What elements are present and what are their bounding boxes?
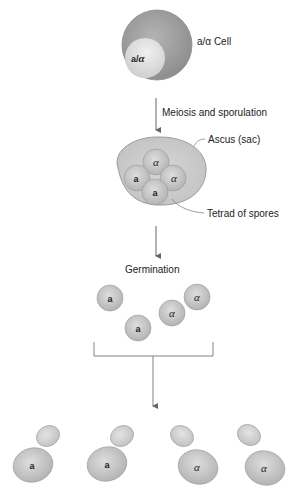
cell-label: α [194,461,200,473]
budding-cell: a [83,421,137,485]
step-meiosis-label: Meiosis and sporulation [162,107,267,118]
budding-cell: α [234,420,289,489]
spore-label: α [171,172,177,184]
germinating-spores: a a α α [97,284,210,341]
parent-cell: a/α [122,10,192,80]
nucleus-label-a: a/α [131,52,146,64]
spore-label: α [194,291,200,303]
parent-cell-label: a/α Cell [197,36,231,47]
bracket [94,342,213,356]
ascus-label: Ascus (sac) [208,134,260,145]
cell-label: α [261,462,267,474]
budding-cell: α [167,421,222,488]
spore-label: α [169,307,175,319]
yeast-life-cycle-diagram: a/α a/α Cell Meiosis and sporulation α a… [0,0,297,489]
budding-cell: a [9,421,63,486]
ascus-leader-line [194,139,205,146]
ascus: α a α a [117,137,206,205]
step-germination-label: Germination [125,264,179,275]
tetrad-label: Tetrad of spores [207,208,279,219]
spore-label: α [153,156,159,168]
